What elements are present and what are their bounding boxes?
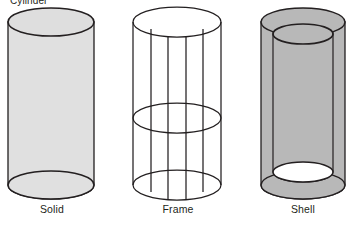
caption-frame: Frame: [133, 203, 223, 215]
frame-middle-ellipse: [133, 103, 221, 133]
shell-inner-top-ellipse: [273, 24, 333, 44]
caption-shell: Shell: [261, 203, 345, 215]
solid-top-ellipse: [8, 8, 94, 36]
shell-inner-wall: [273, 34, 333, 182]
frame-top-ellipse: [133, 7, 221, 37]
figure-root: Cylinder: [0, 0, 354, 229]
cylinder-solid-graphic: [0, 0, 354, 229]
cylinder-solid: [8, 8, 94, 199]
cylinder-frame: [133, 7, 221, 200]
frame-bottom-ellipse: [133, 170, 221, 200]
shell-cavity-ellipse: [273, 162, 333, 182]
cylinder-shell: [261, 8, 345, 199]
caption-solid: Solid: [8, 203, 96, 215]
solid-bottom-ellipse: [8, 171, 94, 199]
